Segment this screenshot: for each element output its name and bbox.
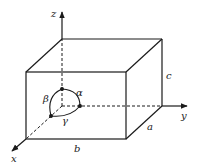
label-edge-c: c — [166, 70, 172, 81]
edge-a — [126, 106, 162, 139]
edge-top-left — [26, 39, 62, 72]
edge-top-right — [126, 39, 162, 72]
label-edge-a: a — [147, 121, 153, 132]
arc-point-z — [61, 88, 64, 91]
arc-point-y — [79, 105, 82, 108]
label-edge-b: b — [74, 143, 80, 154]
arc-beta — [50, 89, 62, 116]
x-axis — [12, 139, 26, 151]
label-z-axis: z — [50, 8, 57, 19]
label-angle-alpha: α — [76, 87, 83, 98]
front-face — [26, 72, 126, 139]
arc-point-x — [50, 115, 53, 118]
axes — [12, 12, 187, 151]
label-x-axis: x — [11, 153, 17, 164]
hidden-edge-x — [26, 106, 62, 139]
label-angle-beta: β — [42, 93, 49, 104]
unit-cell-diagram: z y x c a b α β γ — [0, 0, 199, 164]
label-angle-gamma: γ — [62, 115, 68, 126]
label-y-axis: y — [180, 110, 187, 121]
box-edges — [26, 39, 162, 139]
